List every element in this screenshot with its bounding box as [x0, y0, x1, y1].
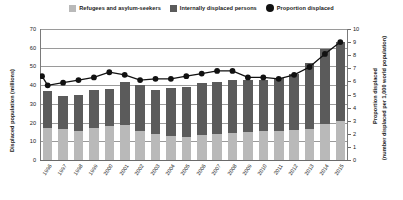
y-tick-mark-right — [348, 55, 351, 56]
bar-segment-refugees — [135, 131, 145, 160]
stacked-bar[interactable] — [74, 95, 84, 160]
bar-segment-idp — [289, 74, 299, 131]
y-tick-label-right: 5 — [353, 92, 371, 98]
x-tick-label: 2002 — [133, 163, 145, 176]
x-label-slot: 2009 — [240, 162, 255, 198]
bar-slot — [71, 29, 86, 160]
bar-segment-refugees — [259, 131, 269, 160]
y-tick-label-right: 10 — [353, 26, 371, 32]
y-tick-label-right: 0 — [353, 157, 371, 163]
bar-segment-refugees — [74, 131, 84, 160]
stacked-bar[interactable] — [212, 82, 222, 160]
x-tick-label: 2005 — [179, 163, 191, 176]
x-tick-label: 1998 — [72, 163, 84, 176]
stacked-bar[interactable] — [166, 88, 176, 160]
bar-segment-idp — [305, 63, 315, 129]
x-label-slot: 2012 — [287, 162, 302, 198]
y-tick-label-right: 2 — [353, 131, 371, 137]
bar-segment-refugees — [89, 128, 99, 160]
bar-slot — [240, 29, 255, 160]
x-label-slot: 2005 — [179, 162, 194, 198]
x-tick-label: 2010 — [257, 163, 269, 176]
stacked-bar[interactable] — [289, 74, 299, 160]
y-tick-label-left: 0 — [18, 157, 36, 163]
x-tick-label: 2014 — [318, 163, 330, 176]
x-axis-labels: 1996199719981999200020012002200320042005… — [40, 162, 348, 198]
bar-segment-idp — [182, 87, 192, 137]
bar-segment-refugees — [151, 134, 161, 160]
bar-slot — [55, 29, 70, 160]
bar-segment-refugees — [43, 128, 53, 160]
bar-slot — [271, 29, 286, 160]
x-label-slot: 2014 — [317, 162, 332, 198]
y-axis-title-right-line1: Proportion displaced — [372, 68, 378, 124]
bar-slot — [132, 29, 147, 160]
x-label-slot: 2007 — [209, 162, 224, 198]
legend-item-idp: Internally displaced persons — [170, 5, 257, 12]
bar-segment-idp — [89, 90, 99, 128]
bar-segment-refugees — [182, 137, 192, 160]
stacked-bar[interactable] — [336, 42, 346, 160]
x-label-slot: 2015 — [333, 162, 348, 198]
gridline — [40, 160, 348, 161]
bar-slot — [148, 29, 163, 160]
stacked-bar[interactable] — [120, 82, 130, 160]
x-label-slot: 2011 — [271, 162, 286, 198]
plot-area — [40, 29, 348, 160]
bar-segment-refugees — [274, 131, 284, 160]
x-tick-label: 2011 — [272, 163, 284, 176]
stacked-bar[interactable] — [259, 80, 269, 160]
x-tick-label: 2008 — [226, 163, 238, 176]
bar-segment-idp — [228, 80, 238, 132]
stacked-bar[interactable] — [182, 87, 192, 160]
bar-segment-refugees — [305, 129, 315, 160]
bar-slot — [302, 29, 317, 160]
stacked-bar[interactable] — [105, 89, 115, 160]
chart-legend: Refugees and asylum-seekers Internally d… — [0, 4, 403, 12]
x-tick-label: 1999 — [87, 163, 99, 176]
y-tick-mark-right — [348, 147, 351, 148]
y-tick-label-left: 30 — [18, 101, 36, 107]
y-tick-label-right: 3 — [353, 118, 371, 124]
y-tick-mark-right — [348, 108, 351, 109]
stacked-bar[interactable] — [135, 85, 145, 160]
stacked-bar[interactable] — [43, 91, 53, 160]
x-tick-label: 1997 — [56, 163, 68, 176]
bar-slot — [102, 29, 117, 160]
y-tick-mark-right — [348, 29, 351, 30]
bar-segment-refugees — [166, 136, 176, 160]
bar-segment-idp — [243, 80, 253, 132]
bar-segment-refugees — [212, 134, 222, 160]
bar-segment-idp — [320, 49, 330, 124]
y-tick-label-left: 70 — [18, 26, 36, 32]
x-label-slot: 2003 — [148, 162, 163, 198]
bar-segment-idp — [259, 80, 269, 132]
bar-segment-refugees — [336, 121, 346, 160]
stacked-bar[interactable] — [320, 49, 330, 160]
x-label-slot: 1996 — [40, 162, 55, 198]
stacked-bar[interactable] — [89, 90, 99, 160]
circle-marker-icon — [266, 4, 274, 12]
stacked-bar[interactable] — [58, 96, 68, 160]
bar-segment-refugees — [243, 132, 253, 160]
bar-segment-idp — [105, 89, 115, 126]
y-tick-label-left: 40 — [18, 82, 36, 88]
stacked-bar[interactable] — [151, 90, 161, 160]
bar-segment-idp — [58, 96, 68, 129]
stacked-bar[interactable] — [274, 78, 284, 160]
bar-segment-refugees — [289, 130, 299, 160]
x-tick-label: 2007 — [210, 163, 222, 176]
stacked-bar[interactable] — [197, 83, 207, 160]
stacked-bar[interactable] — [228, 80, 238, 160]
stacked-bar[interactable] — [305, 63, 315, 160]
bar-segment-idp — [135, 85, 145, 131]
y-tick-mark-right — [348, 160, 351, 161]
y-tick-label-right: 6 — [353, 78, 371, 84]
stacked-bar[interactable] — [243, 80, 253, 160]
bar-slot — [225, 29, 240, 160]
legend-item-refugees: Refugees and asylum-seekers — [69, 5, 161, 12]
y-tick-label-left: 60 — [18, 45, 36, 51]
bar-slot — [209, 29, 224, 160]
x-tick-label: 2013 — [303, 163, 315, 176]
x-tick-label: 2003 — [149, 163, 161, 176]
